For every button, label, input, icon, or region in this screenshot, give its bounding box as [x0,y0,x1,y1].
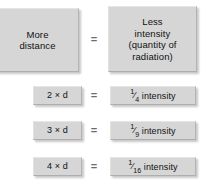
intensity-label: 1⁄9 intensity [130,124,175,138]
header-less-intensity-line2: intensity [135,28,171,39]
fraction-denominator: 16 [133,167,141,174]
header-less-intensity-line4: radiation) [132,51,173,62]
fraction: 1⁄16 [128,159,141,173]
intensity-unit: intensity [142,91,176,101]
header-more-distance-text: More distance [16,29,58,52]
distance-label: 2 × d [47,90,68,101]
header-less-intensity-text: Less intensity (quantity of radiation) [125,16,179,62]
fraction: 1⁄9 [130,123,139,137]
header-box-less-intensity: Less intensity (quantity of radiation) [108,6,197,72]
distance-label: 3 × d [47,125,68,136]
row-equals-sign: = [86,161,102,172]
distance-box: 3 × d [33,121,82,140]
intensity-unit: intensity [142,126,176,136]
distance-label: 4 × d [47,161,68,172]
intensity-box: 1⁄16 intensity [110,157,196,176]
fraction-denominator: 9 [135,131,139,138]
header-box-more-distance: More distance [0,8,79,72]
header-less-intensity-line1: Less [142,16,162,27]
header-more-distance-line2: distance [19,40,55,51]
header-more-distance-line1: More [26,29,48,40]
inverse-square-law-diagram: More distance = Less intensity (quantity… [0,0,214,192]
intensity-label: 1⁄4 intensity [130,89,175,103]
fraction-denominator: 4 [135,96,139,103]
fraction: 1⁄4 [130,88,139,102]
intensity-label: 1⁄16 intensity [128,160,177,174]
row-equals-sign: = [86,125,102,136]
distance-box: 2 × d [33,86,82,105]
intensity-unit: intensity [144,162,178,172]
intensity-box: 1⁄9 intensity [110,121,196,140]
header-equals-sign: = [86,34,102,45]
header-less-intensity-line3: (quantity of [128,39,176,50]
intensity-box: 1⁄4 intensity [110,86,196,105]
distance-box: 4 × d [33,157,82,176]
row-equals-sign: = [86,90,102,101]
